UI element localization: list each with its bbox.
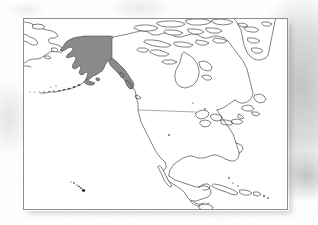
map-frame xyxy=(23,18,288,210)
page-root xyxy=(0,0,318,225)
